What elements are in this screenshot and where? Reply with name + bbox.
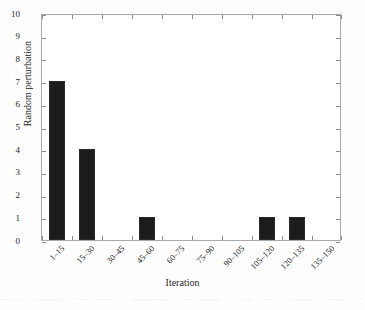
y-tick-label: 9 <box>2 32 20 41</box>
plot-area <box>41 14 341 241</box>
y-tick-mark <box>336 60 340 61</box>
y-tick-label: 2 <box>2 191 20 200</box>
y-tick-label: 4 <box>2 146 20 155</box>
y-tick-mark <box>42 151 46 152</box>
x-tick-mark <box>252 236 253 240</box>
y-tick-mark <box>42 106 46 107</box>
x-tick-mark <box>72 236 73 240</box>
x-tick-mark <box>252 15 253 19</box>
x-tick-mark <box>222 236 223 240</box>
x-tick-mark <box>102 236 103 240</box>
y-tick-label: 1 <box>2 214 20 223</box>
bar <box>139 217 156 240</box>
y-tick-mark <box>42 38 46 39</box>
y-tick-label: 6 <box>2 100 20 109</box>
bar <box>289 217 306 240</box>
x-tick-mark <box>192 15 193 19</box>
x-tick-mark <box>162 236 163 240</box>
x-tick-mark <box>222 15 223 19</box>
y-tick-label: 10 <box>2 10 20 19</box>
y-tick-mark <box>336 38 340 39</box>
y-tick-mark <box>42 242 46 243</box>
x-tick-mark <box>312 236 313 240</box>
x-tick-mark <box>42 236 43 240</box>
x-tick-mark <box>341 15 342 19</box>
scan-artifact-strip: — — ·· ——— · ··—· —— · ·· ———— ·· — · ——… <box>0 292 365 306</box>
x-axis-title: Iteration <box>0 277 365 288</box>
x-tick-mark <box>282 236 283 240</box>
y-tick-mark <box>42 219 46 220</box>
y-tick-mark <box>42 83 46 84</box>
y-tick-mark <box>336 129 340 130</box>
y-tick-mark <box>336 242 340 243</box>
y-tick-mark <box>336 15 340 16</box>
x-tick-mark <box>312 15 313 19</box>
y-tick-label: 0 <box>2 237 20 246</box>
y-tick-mark <box>42 129 46 130</box>
bars-layer <box>42 15 340 240</box>
bar <box>259 217 276 240</box>
y-tick-label: 7 <box>2 78 20 87</box>
y-tick-mark <box>336 106 340 107</box>
y-tick-label: 8 <box>2 55 20 64</box>
y-axis-title: Random perturbation <box>22 9 33 159</box>
x-tick-mark <box>162 15 163 19</box>
y-tick-mark <box>42 197 46 198</box>
y-tick-mark <box>336 197 340 198</box>
y-tick-mark <box>336 151 340 152</box>
x-tick-mark <box>132 236 133 240</box>
x-tick-mark <box>72 15 73 19</box>
y-tick-label: 5 <box>2 123 20 132</box>
y-tick-mark <box>336 174 340 175</box>
x-tick-mark <box>132 15 133 19</box>
y-tick-mark <box>42 60 46 61</box>
y-tick-mark <box>42 174 46 175</box>
bar <box>79 149 96 240</box>
x-tick-mark <box>42 15 43 19</box>
x-tick-mark <box>102 15 103 19</box>
x-tick-mark <box>192 236 193 240</box>
y-tick-mark <box>336 83 340 84</box>
y-tick-label: 3 <box>2 168 20 177</box>
bar <box>49 81 66 240</box>
chart-figure: Random perturbation 012345678910 1–1515–… <box>0 0 365 310</box>
x-tick-mark <box>282 15 283 19</box>
y-tick-mark <box>336 219 340 220</box>
x-tick-mark <box>341 236 342 240</box>
